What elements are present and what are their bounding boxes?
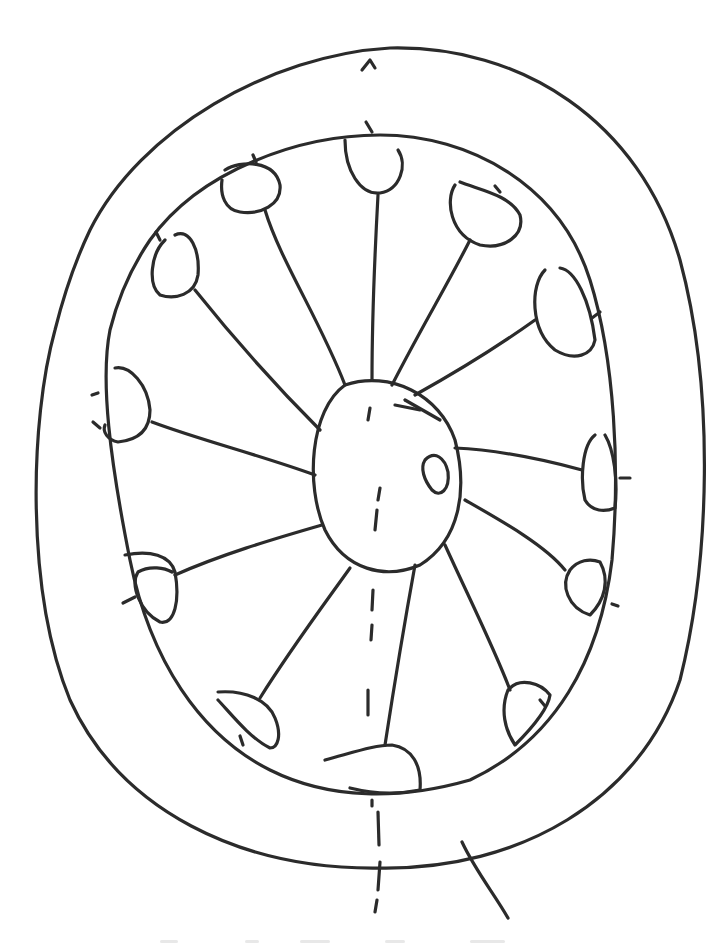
lower-dash-1 <box>372 590 373 610</box>
spoke-line <box>465 500 565 570</box>
spoke-line <box>175 525 322 575</box>
spoke-line <box>445 545 510 690</box>
caption-fragment <box>470 940 505 943</box>
outer-ring-outer-edge <box>36 48 704 868</box>
spoke-lobe <box>152 234 198 297</box>
top-tick <box>366 122 372 132</box>
bottom-dash-2 <box>378 812 379 845</box>
caption-fragment <box>385 940 405 943</box>
spoke-lobe <box>104 368 150 442</box>
caption-fragment <box>245 940 259 943</box>
spoke-lobe <box>582 435 616 510</box>
spoke-7 <box>445 545 550 745</box>
spoke-lobe <box>504 682 550 745</box>
spoke-4 <box>415 268 595 395</box>
tick-mark <box>93 422 100 428</box>
spoke-line <box>415 320 535 395</box>
caption-fragment <box>160 940 178 943</box>
hub-dash-2 <box>375 488 380 530</box>
wheel-sketch-diagram <box>0 0 722 945</box>
spoke-line <box>455 448 582 470</box>
tick-mark <box>612 604 618 606</box>
lower-dash-2 <box>371 625 372 640</box>
spoke-line <box>265 210 345 385</box>
bottom-dash-3 <box>378 862 380 890</box>
spoke-lobe <box>535 268 595 356</box>
tick-mark <box>240 736 243 745</box>
spoke-line <box>260 568 350 698</box>
spoke-3 <box>392 182 521 385</box>
spoke-lobe <box>125 553 177 622</box>
hub <box>313 381 460 572</box>
spokes <box>104 140 616 793</box>
tick-mark <box>405 400 440 420</box>
tick-mark <box>540 700 545 706</box>
cropped-caption-fragments <box>150 936 600 945</box>
hub-dash-1 <box>368 408 370 420</box>
spoke-line <box>372 195 378 380</box>
tick-mark <box>123 597 135 603</box>
bottom-dash-4 <box>375 900 377 912</box>
spoke-1 <box>222 164 345 385</box>
spoke-5 <box>455 435 616 510</box>
spoke-lobe <box>345 140 402 193</box>
hub-outline <box>313 381 460 572</box>
spoke-line <box>152 422 315 475</box>
tick-marks <box>92 155 630 745</box>
spoke-12 <box>152 234 320 430</box>
spoke-6 <box>465 500 605 615</box>
spoke-10 <box>125 525 322 622</box>
tick-mark <box>495 186 500 192</box>
spoke-lobe <box>325 745 420 793</box>
stem-right <box>462 842 508 918</box>
spoke-line <box>195 290 320 430</box>
top-caret <box>362 60 375 70</box>
outer-ring <box>36 48 704 868</box>
tick-mark <box>92 393 98 395</box>
spoke-2 <box>345 140 402 380</box>
spoke-lobe <box>566 560 605 615</box>
spoke-line <box>385 565 415 745</box>
spoke-lobe <box>450 182 520 246</box>
hub-small-loop <box>423 456 448 494</box>
spoke-line <box>392 240 470 385</box>
caption-fragment <box>300 940 330 943</box>
spoke-11 <box>104 368 315 475</box>
spoke-9 <box>218 568 350 748</box>
tick-mark <box>156 232 160 240</box>
